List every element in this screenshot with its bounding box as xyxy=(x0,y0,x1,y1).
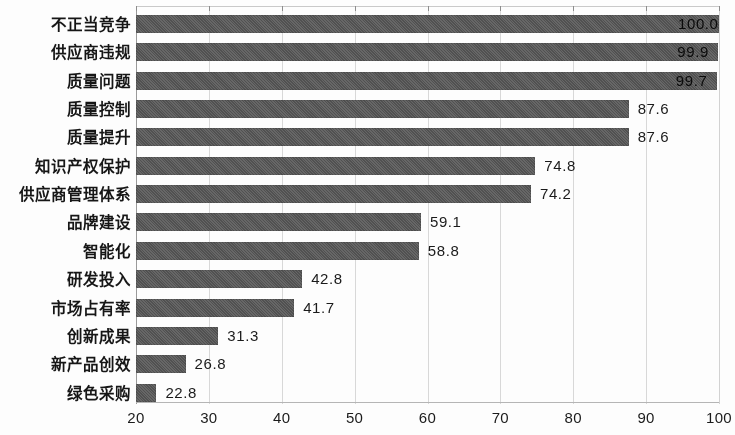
category-label-text: 供应商违规 xyxy=(51,38,131,67)
bar-value-label: 58.8 xyxy=(428,242,460,260)
category-label-7: 供应商管理体系 xyxy=(0,180,131,209)
category-label-text: 质量控制 xyxy=(67,95,131,124)
category-label-10: 研发投入 xyxy=(0,265,131,294)
category-label-6: 知识产权保护 xyxy=(0,152,131,181)
category-label-text: 研发投入 xyxy=(67,265,131,294)
category-label-text: 创新成果 xyxy=(67,322,131,351)
category-label-text: 质量问题 xyxy=(67,67,131,96)
bar xyxy=(136,270,302,288)
x-axis-label-80: 80 xyxy=(565,409,582,426)
x-axis-label-70: 70 xyxy=(492,409,509,426)
tick-mark-100 xyxy=(719,6,720,11)
bar xyxy=(136,128,629,146)
bar-row: 智能化58.8 xyxy=(136,237,719,266)
bar xyxy=(136,100,629,118)
bar xyxy=(136,213,421,231)
bar xyxy=(136,72,717,90)
category-label-text: 品牌建设 xyxy=(67,208,131,237)
bar-row: 创新成果31.3 xyxy=(136,322,719,351)
bar-row: 不正当竞争100.0 xyxy=(136,10,719,39)
bar-row: 品牌建设59.1 xyxy=(136,208,719,237)
x-axis-label-60: 60 xyxy=(419,409,436,426)
bar-row: 供应商违规99.9 xyxy=(136,38,719,67)
category-label-8: 品牌建设 xyxy=(0,208,131,237)
x-axis-label-90: 90 xyxy=(637,409,654,426)
bar xyxy=(136,355,186,373)
plot-area: 不正当竞争100.0供应商违规99.9质量问题99.7质量控制87.6质量提升8… xyxy=(136,6,719,404)
category-label-text: 新产品创效 xyxy=(51,350,131,379)
category-label-text: 供应商管理体系 xyxy=(19,180,131,209)
bar xyxy=(136,384,156,402)
category-label-9: 智能化 xyxy=(0,237,131,266)
category-label-2: 供应商违规 xyxy=(0,38,131,67)
bar-value-label: 99.7 xyxy=(676,72,708,90)
category-label-text: 市场占有率 xyxy=(51,294,131,323)
bar-value-label: 99.9 xyxy=(677,43,709,61)
bar-row: 质量问题99.7 xyxy=(136,67,719,96)
category-label-text: 知识产权保护 xyxy=(35,152,131,181)
bar xyxy=(136,43,718,61)
category-label-text: 质量提升 xyxy=(67,123,131,152)
x-axis-label-30: 30 xyxy=(200,409,217,426)
x-axis-label-20: 20 xyxy=(127,409,144,426)
category-label-4: 质量控制 xyxy=(0,95,131,124)
x-axis-tick-labels: 2030405060708090100 xyxy=(136,403,719,435)
bar xyxy=(136,299,294,317)
bar-value-label: 87.6 xyxy=(638,128,670,146)
bar xyxy=(136,15,719,33)
category-label-14: 绿色采购 xyxy=(0,379,131,408)
bar xyxy=(136,242,419,260)
bar-row: 市场占有率41.7 xyxy=(136,294,719,323)
bar-row: 质量提升87.6 xyxy=(136,123,719,152)
bar xyxy=(136,327,218,345)
bar-row: 新产品创效26.8 xyxy=(136,350,719,379)
category-label-12: 创新成果 xyxy=(0,322,131,351)
bar-chart: 不正当竞争100.0供应商违规99.9质量问题99.7质量控制87.6质量提升8… xyxy=(0,0,735,435)
x-axis-label-50: 50 xyxy=(346,409,363,426)
bar-value-label: 100.0 xyxy=(678,15,719,33)
bar-value-label: 41.7 xyxy=(303,299,335,317)
gridline-100 xyxy=(719,7,720,404)
x-axis-label-40: 40 xyxy=(273,409,290,426)
category-label-5: 质量提升 xyxy=(0,123,131,152)
category-label-text: 智能化 xyxy=(83,237,131,266)
bar-row: 供应商管理体系74.2 xyxy=(136,180,719,209)
bar-value-label: 87.6 xyxy=(638,100,670,118)
category-label-1: 不正当竞争 xyxy=(0,10,131,39)
bar xyxy=(136,185,531,203)
bar-value-label: 74.2 xyxy=(540,185,572,203)
bar-row: 知识产权保护74.8 xyxy=(136,152,719,181)
category-label-11: 市场占有率 xyxy=(0,294,131,323)
bar-value-label: 59.1 xyxy=(430,213,462,231)
bar-value-label: 74.8 xyxy=(544,157,576,175)
bar-value-label: 42.8 xyxy=(311,270,343,288)
category-label-text: 绿色采购 xyxy=(67,379,131,408)
x-axis-label-100: 100 xyxy=(706,409,732,426)
category-label-13: 新产品创效 xyxy=(0,350,131,379)
bar xyxy=(136,157,535,175)
category-label-text: 不正当竞争 xyxy=(51,10,131,39)
bar-row: 研发投入42.8 xyxy=(136,265,719,294)
bar-value-label: 31.3 xyxy=(227,327,259,345)
bar-value-label: 26.8 xyxy=(195,355,227,373)
bar-row: 质量控制87.6 xyxy=(136,95,719,124)
category-label-3: 质量问题 xyxy=(0,67,131,96)
bar-value-label: 22.8 xyxy=(165,384,197,402)
